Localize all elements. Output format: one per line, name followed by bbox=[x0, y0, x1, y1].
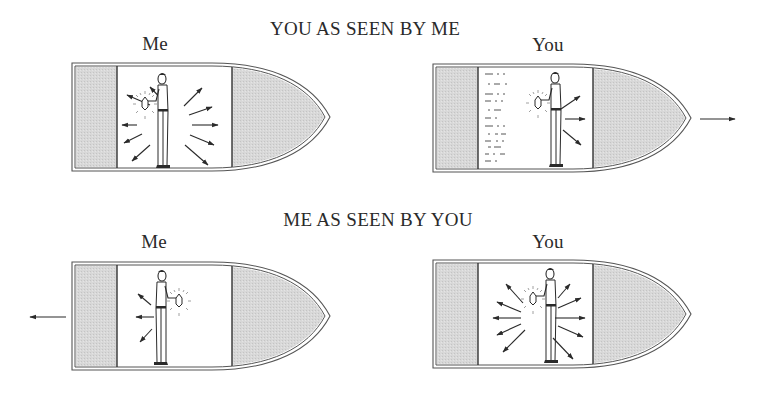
boat-top-me bbox=[72, 63, 330, 171]
boat-bottom-you bbox=[433, 260, 691, 368]
boat-top-you bbox=[433, 64, 691, 172]
boat-bottom-me bbox=[72, 262, 330, 370]
relativity-boats-diagram bbox=[0, 0, 762, 394]
